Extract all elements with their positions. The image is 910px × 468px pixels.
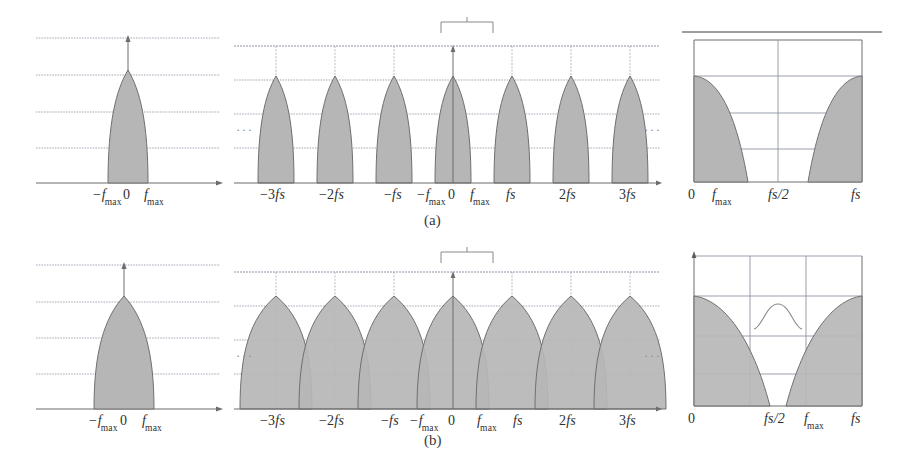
span-bracket-a xyxy=(441,17,493,33)
axis-label-neg3fs-b: −3fs xyxy=(260,414,285,428)
axis-label-fmax-mid-b: fmax xyxy=(477,414,498,431)
axis-label-negfs-b: −fs xyxy=(381,414,399,428)
axis-label-2fs: 2fs xyxy=(559,188,576,202)
y-axis-arrow-b-left xyxy=(121,262,126,269)
axis-label-2fs-b: 2fs xyxy=(559,414,576,428)
panel-a-middle: ··· ··· −3fs −2fs −fs −fmax 0 fmax fs xyxy=(232,0,662,200)
axis-label-fs-half-a: fs/2 xyxy=(768,188,789,202)
axis-label-3fs-b: 3fs xyxy=(619,414,636,428)
axis-label-3fs: 3fs xyxy=(619,188,636,202)
axis-label-fmax-right-a: fmax xyxy=(712,188,733,205)
axis-label-fs-right-a: fs xyxy=(851,188,861,202)
panel-a-left: −fmax 0 fmax xyxy=(30,0,230,200)
axis-label-zero-right-a: 0 xyxy=(688,188,695,202)
axis-label-zero-mid-b: 0 xyxy=(448,414,455,428)
axis-label-neg-fmax-b: −fmax xyxy=(88,414,119,431)
axis-label-fmax-b: fmax xyxy=(142,414,163,431)
figure-row-b: −fmax 0 fmax xyxy=(0,234,910,468)
axis-label-fs: fs xyxy=(506,188,516,202)
axis-label-zero-b: 0 xyxy=(120,414,127,428)
panel-b-middle: ··· ··· −3fs −2fs −fs −fmax 0 fmax fs xyxy=(232,234,662,434)
ellipsis-right-b: ··· xyxy=(644,348,662,364)
panel-b-left: −fmax 0 fmax xyxy=(30,234,230,434)
figure-row-a: −fmax 0 fmax xyxy=(0,0,910,234)
axis-label-zero-right-b: 0 xyxy=(688,412,695,426)
x-axis-arrow-a-middle xyxy=(656,180,662,185)
axis-label-fs-half-b: fs/2 xyxy=(764,412,785,426)
left-replica-overlap-b xyxy=(694,296,770,406)
baseband-lobe-b xyxy=(94,296,154,409)
x-axis-arrow-a-left xyxy=(216,180,223,185)
axis-label-fmax-right-b: fmax xyxy=(804,412,825,429)
x-axis-arrow-b-left xyxy=(216,406,223,411)
axis-label-negfs: −fs xyxy=(384,188,402,202)
caption-b: (b) xyxy=(424,432,442,449)
axis-label-neg-fmax: −fmax xyxy=(92,188,123,205)
axis-label-neg2fs-b: −2fs xyxy=(319,414,344,428)
axis-label-neg-fmax-mid: −fmax xyxy=(416,188,447,205)
span-bracket-b xyxy=(441,247,493,263)
axis-label-fmax: fmax xyxy=(144,188,165,205)
axis-label-fmax-mid: fmax xyxy=(470,188,491,205)
caption-a: (a) xyxy=(424,212,441,229)
y-axis-arrow-a-left xyxy=(125,35,130,42)
axis-label-neg2fs: −2fs xyxy=(319,188,344,202)
right-replica-overlap-b xyxy=(786,296,862,406)
axis-label-fs-right-b: fs xyxy=(851,412,861,426)
ellipsis-right-a: ··· xyxy=(644,122,662,138)
ellipsis-left-b: ··· xyxy=(236,348,254,364)
right-replica-tail-a xyxy=(808,76,862,182)
left-replica-tail-a xyxy=(694,76,748,182)
alias-sum-curve-b xyxy=(754,304,802,329)
axis-label-zero-mid: 0 xyxy=(448,188,455,202)
y-axis-arrow-b-right xyxy=(692,251,697,258)
baseband-lobe-a xyxy=(108,70,148,183)
axis-label-neg3fs: −3fs xyxy=(260,188,285,202)
ellipsis-left-a: ··· xyxy=(236,122,254,138)
sampling-spectra-figure: −fmax 0 fmax xyxy=(0,0,910,468)
axis-label-fs-b: fs xyxy=(513,414,523,428)
axis-label-zero: 0 xyxy=(123,188,130,202)
axis-label-neg-fmax-mid-b: −fmax xyxy=(409,414,440,431)
panel-a-right: 0 fmax fs/2 fs xyxy=(676,0,896,200)
panel-b-right: 0 fs/2 fmax fs xyxy=(676,234,896,434)
